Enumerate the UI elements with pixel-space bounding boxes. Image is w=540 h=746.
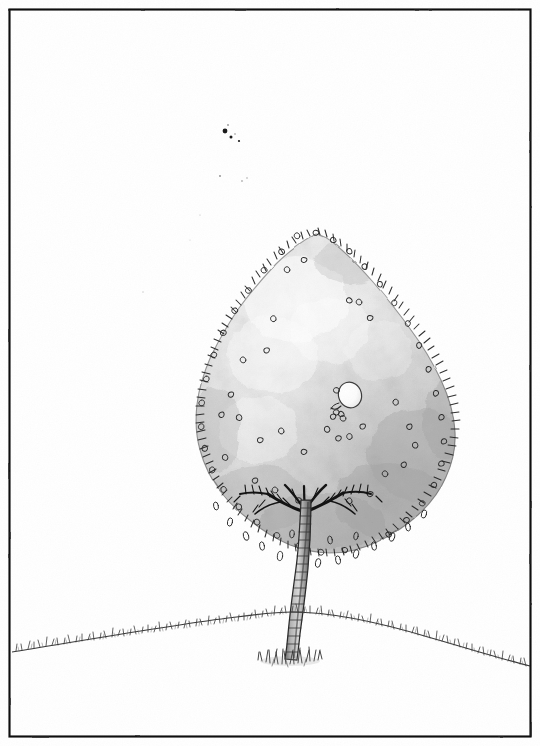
paper-grain-overlay bbox=[0, 0, 540, 746]
artwork-root: Lone Tree on a Hill bbox=[0, 0, 540, 746]
tree-illustration bbox=[0, 0, 540, 746]
